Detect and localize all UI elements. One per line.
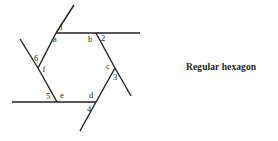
extension-through-c — [115, 68, 131, 96]
vertex-labels-group: a b c d e f — [43, 34, 111, 100]
exterior-angle-label-5: 5 — [46, 91, 50, 101]
vertex-label-e: e — [60, 90, 64, 100]
hexagon-extensions-group — [12, 5, 140, 131]
vertex-label-c: c — [106, 61, 110, 71]
vertex-label-b: b — [88, 34, 92, 44]
figure-container: a b c d e f 1 2 3 4 5 6 Regular hexagon — [0, 0, 278, 141]
exterior-angle-label-2: 2 — [101, 33, 105, 43]
figure-caption: Regular hexagon — [186, 62, 256, 72]
vertex-label-a: a — [53, 34, 57, 44]
exterior-angle-label-6: 6 — [34, 53, 38, 63]
exterior-angle-label-4: 4 — [87, 104, 92, 114]
exterior-angle-labels-group: 1 2 3 4 5 6 — [34, 22, 117, 114]
exterior-angle-label-1: 1 — [59, 22, 63, 32]
vertex-label-d: d — [89, 90, 94, 100]
vertex-label-f: f — [43, 64, 46, 74]
exterior-angle-label-3: 3 — [113, 72, 117, 82]
